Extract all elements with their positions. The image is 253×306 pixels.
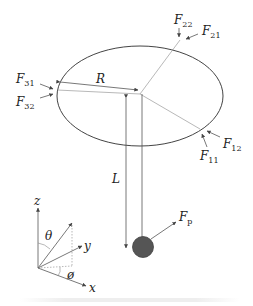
fp-label: Fp — [178, 210, 192, 226]
platform-ellipse — [57, 46, 223, 146]
f11-label: F11 — [199, 149, 219, 165]
f11-arrow — [202, 134, 207, 147]
f21-label: F21 — [201, 24, 221, 40]
f21-arrow — [186, 34, 198, 39]
f31-label: F31 — [15, 72, 35, 88]
z-label: z — [33, 194, 41, 208]
pendulum-ball — [133, 237, 154, 258]
f32-label: F32 — [15, 95, 35, 111]
radius-label: R — [95, 72, 105, 86]
f32-arrow — [40, 94, 53, 98]
theta-label: θ — [45, 229, 53, 243]
theta-arc — [38, 243, 50, 249]
y-axis — [38, 246, 82, 268]
coordinate-axes — [38, 208, 86, 286]
length-label: L — [111, 172, 120, 186]
x-label: x — [89, 281, 96, 295]
spokes — [57, 40, 200, 129]
x-axis — [38, 268, 86, 286]
f12-label: F12 — [222, 137, 242, 153]
f12-arrow — [207, 131, 220, 137]
pendulum-diagram: R L Fp F22 F21 F31 F32 F12 F11 z y x θ ø — [0, 0, 253, 306]
phi-label: ø — [66, 268, 75, 282]
f31-arrow — [40, 84, 53, 89]
y-label: y — [83, 239, 91, 253]
faint-caption-bleed — [20, 298, 240, 302]
fp-arrow — [151, 222, 176, 239]
vector — [38, 223, 72, 268]
f22-label: F22 — [173, 13, 193, 29]
phi-arc — [58, 267, 60, 276]
